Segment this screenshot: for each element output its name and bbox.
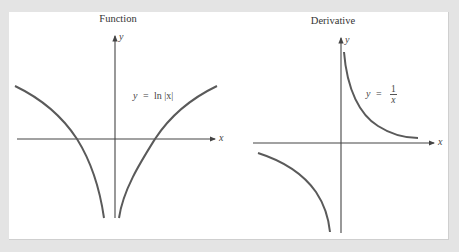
figure-graphics — [0, 0, 459, 252]
formula-lhs: y — [133, 90, 137, 101]
left-y-axis-label: y — [119, 31, 123, 42]
ln-formula-label: y = ln |x| — [133, 90, 173, 101]
right-x-axis-label: x — [438, 136, 442, 147]
formula-equals: = — [143, 90, 149, 101]
left-plot — [15, 36, 217, 218]
fraction-denominator: x — [390, 95, 397, 105]
right-plot — [253, 38, 434, 233]
formula-equals: = — [376, 88, 382, 99]
right-y-axis-label: y — [345, 34, 349, 45]
formula-lhs: y — [366, 88, 370, 99]
left-x-axis-label: x — [219, 132, 223, 143]
fraction-numerator: 1 — [390, 84, 397, 95]
reciprocal-formula-label: y = 1 x — [366, 84, 397, 105]
ln-curve-positive-branch — [119, 86, 217, 218]
left-plot-title: Function — [99, 13, 136, 24]
formula-rhs: ln |x| — [154, 90, 173, 101]
formula-fraction: 1 x — [390, 84, 397, 105]
reciprocal-curve-negative-branch — [258, 153, 330, 232]
right-plot-title: Derivative — [311, 15, 355, 26]
ln-curve-negative-branch — [15, 86, 104, 218]
